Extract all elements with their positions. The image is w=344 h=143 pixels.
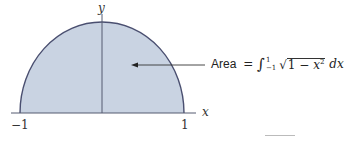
area-word: Area — [211, 58, 236, 70]
integral-sign: ∫ — [257, 57, 265, 72]
integral-limits: 1 −1 — [266, 56, 276, 72]
y-axis-label: y — [98, 2, 105, 14]
radicand-var: x — [313, 58, 320, 72]
radicand-exponent: 2 — [320, 58, 324, 66]
square-root: √ 1 − x2 — [279, 58, 325, 71]
equals-sign: = — [239, 58, 257, 70]
lower-limit: −1 — [266, 64, 276, 72]
radicand-prefix: 1 − — [288, 58, 313, 72]
differential: dx — [325, 58, 343, 70]
radicand: 1 − x2 — [287, 58, 326, 71]
x-tick-1: 1 — [181, 119, 189, 131]
cropped-artifact-line — [265, 135, 295, 136]
x-tick-neg1: −1 — [11, 119, 29, 131]
area-annotation: Area = ∫ 1 −1 √ 1 − x2 dx — [211, 56, 344, 72]
sqrt-sign: √ — [279, 59, 287, 71]
x-axis-label: x — [202, 106, 209, 118]
upper-limit: 1 — [266, 56, 276, 64]
area-formula: = ∫ 1 −1 √ 1 − x2 dx — [239, 56, 343, 72]
